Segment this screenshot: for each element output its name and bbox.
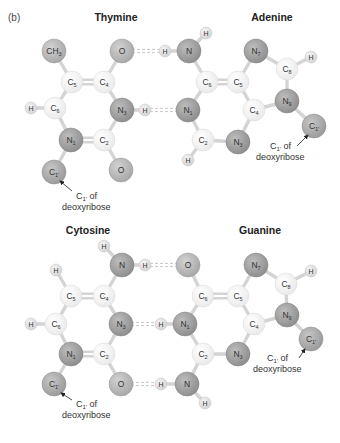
atom-c5: C5 [227,71,249,93]
panel-label: (b) [8,12,20,23]
atom-h: H [155,378,167,390]
atom-label: H [202,400,207,407]
annotation-line1: C1' of [267,353,288,364]
atom-c8: C8 [276,58,298,80]
atom-c1prime: C1' [42,160,66,184]
atom-n1: N1 [176,98,200,122]
atom-n9: N9 [275,303,299,327]
atom-n1: N1 [59,342,83,366]
atom-c5: C5 [227,285,249,307]
atom-c6: C6 [192,285,214,307]
annotation-line2: deoxyribose [253,364,302,374]
atom-c2: C2 [192,343,214,365]
atom-h: H [200,27,212,39]
atom-h: H [199,397,211,409]
annotation-line2: deoxyribose [62,202,111,212]
atom-h: H [25,318,37,330]
atom-h: H [159,45,171,57]
atom-label: N [119,260,125,270]
atom-label: H [28,321,33,328]
base-pair-diagram: (b) CH3OC5C4HC6N3N1C2C1'OHHNHC6C5N7C8HN1… [0,0,340,443]
atom-h: H [305,265,317,277]
atom-n3: N3 [226,342,250,366]
atom-label: H [53,267,58,274]
atom-h: H [98,240,110,252]
atom-n: N [175,372,199,396]
atom-label: O [118,379,125,389]
atom-c6: C6 [196,71,218,93]
atom-label: H [142,262,147,269]
atom-label: H [28,105,33,112]
atom-label: H [158,321,163,328]
atom-n7: N7 [244,253,268,277]
atom-n1: N1 [173,312,197,336]
atom-c1prime: C1' [42,372,66,396]
atom-h: H [155,318,167,330]
atom-c8: C8 [275,273,297,295]
atom-label: H [101,243,106,250]
atom-label: N [186,46,192,56]
atom-c2: C2 [93,343,115,365]
molecular-structure-figure: (b) CH3OC5C4HC6N3N1C2C1'OHHNHC6C5N7C8HN1… [0,0,340,443]
base-title-left: Cytosine [66,224,111,236]
atom-c1prime: C1' [299,327,323,351]
atom-n3: N3 [110,98,134,122]
annotation-line2: deoxyribose [256,152,305,162]
annotation-line1: C1' of [76,191,97,202]
atom-n: N [177,39,201,63]
atom-c4: C4 [243,99,265,121]
atom-c1prime: C1' [302,114,326,138]
atom-c5: C5 [61,71,83,93]
atom-c6: C6 [45,313,67,335]
base-title-right: Adenine [251,11,293,23]
atom-n: N [110,253,134,277]
annotation-arrow [297,135,308,146]
hydrogen-bonds-layer [121,49,188,385]
atom-label: H [308,268,313,275]
annotation-arrow [61,393,72,400]
atom-c2: C2 [192,129,214,151]
atom-h: H [139,104,151,116]
atom-h: H [139,259,151,271]
atom-label: H [308,54,313,61]
atom-c6: C6 [44,97,66,119]
atom-c4: C4 [243,313,265,335]
atom-c2: C2 [93,129,115,151]
atom-h: H [25,102,37,114]
atom-label: O [118,165,125,175]
atom-label: N [184,379,190,389]
atom-label: H [158,381,163,388]
atom-label: O [119,46,126,56]
annotation-arrow [299,349,305,358]
annotation-line2: deoxyribose [62,410,111,420]
annotation-line1: C1' of [270,141,291,152]
atom-h: H [182,154,194,166]
atom-o: O [110,39,134,63]
atom-o: O [109,372,133,396]
atom-c4: C4 [93,71,115,93]
atom-label: H [142,107,147,114]
atoms-layer: CH3OC5C4HC6N3N1C2C1'OHHNHC6C5N7C8HN1C4N9… [25,27,326,409]
atom-label: H [185,157,190,164]
atom-n9: N9 [275,89,299,113]
atom-o: O [109,158,133,182]
atom-c4: C4 [93,285,115,307]
base-title-right: Guanine [239,224,281,236]
base-title-left: Thymine [94,11,137,23]
atom-c5: C5 [60,285,82,307]
annotation-arrow [60,181,72,191]
atom-ch3: CH3 [42,39,66,63]
atom-n7: N7 [244,39,268,63]
atom-n3: N3 [109,312,133,336]
atom-h: H [50,264,62,276]
atom-n3: N3 [226,130,250,154]
atom-h: H [305,51,317,63]
atom-label: H [162,48,167,55]
atom-label: O [185,260,192,270]
annotation-line1: C1' of [76,399,97,410]
atom-n1: N1 [59,128,83,152]
atom-label: H [203,30,208,37]
atom-o: O [176,253,200,277]
